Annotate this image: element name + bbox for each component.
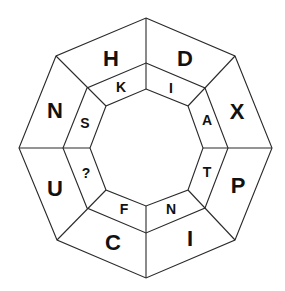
inner-letter-bottom-right: N [166,201,176,217]
inner-letter-right-upper: A [202,112,212,128]
inner-letter-top-right: I [169,80,173,96]
inner-letter-right-lower: T [203,164,212,180]
inner-letter-left-upper: S [80,115,89,131]
outer-letter-top-left: H [103,46,119,71]
octagon-puzzle-diagram: H D X P I C U N K I A T N F ? S [0,0,285,291]
outer-letter-left-lower: U [47,176,63,201]
outer-letter-top-right: D [177,46,193,71]
inner-letter-top-left: K [116,79,126,95]
inner-letter-bottom-left: F [120,201,129,217]
outer-letter-right-lower: P [231,173,246,198]
outer-letter-right-upper: X [230,99,245,124]
outer-letter-bottom-right: I [187,226,193,251]
inner-octagon [90,89,203,206]
inner-letter-left-lower-unknown: ? [82,165,91,181]
outer-letter-left-upper: N [47,98,63,123]
outer-letter-bottom-left: C [105,230,121,255]
